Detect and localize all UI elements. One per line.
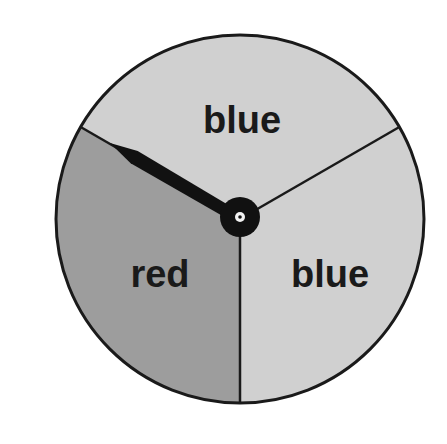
spinner-diagram: blue blue red xyxy=(0,0,447,444)
sector-label-left: red xyxy=(130,253,189,295)
sector-label-right: blue xyxy=(291,253,369,295)
sector-label-top: blue xyxy=(203,99,281,141)
pivot-screw-icon xyxy=(235,212,245,222)
